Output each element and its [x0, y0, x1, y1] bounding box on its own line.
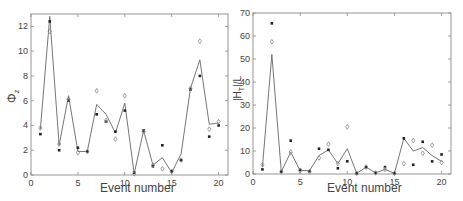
data-point-diamond [114, 137, 117, 142]
axes-frame [31, 14, 228, 175]
data-point-dot [58, 149, 61, 152]
axes-frame [253, 13, 451, 174]
x-tick-label: 20 [214, 178, 224, 188]
chart-right-ht-over-l: 05101520010203040506070 [231, 0, 463, 201]
data-point-diamond [412, 138, 415, 143]
left-ylabel-sub: z [12, 89, 21, 93]
y-tick-label: 8 [23, 71, 28, 81]
data-point-diamond [346, 124, 349, 129]
data-point-dot [431, 160, 434, 163]
y-tick-label: 0 [23, 170, 28, 180]
y-tick-label: 60 [240, 31, 250, 41]
data-point-dot [48, 20, 51, 23]
y-tick-label: 2 [23, 145, 28, 155]
y-tick-label: 6 [23, 96, 28, 106]
data-point-dot [114, 130, 117, 133]
data-point-dot [261, 168, 264, 171]
data-point-diamond [208, 127, 211, 132]
data-point-dot [421, 141, 424, 144]
data-point-diamond [431, 143, 434, 148]
data-point-diamond [402, 161, 405, 166]
y-tick-label: 0 [245, 169, 250, 179]
right-ylabel-sub: T [238, 87, 245, 91]
right-xlabel: Event number [327, 181, 402, 195]
data-point-dot [161, 144, 164, 147]
data-point-dot [318, 147, 321, 150]
data-point-dot [199, 75, 202, 78]
left-ylabel-main: Φ [5, 93, 19, 103]
data-point-dot [346, 160, 349, 163]
y-tick-label: 10 [18, 46, 28, 56]
data-point-diamond [198, 39, 201, 44]
y-tick-label: 70 [240, 8, 250, 18]
data-point-dot [289, 139, 292, 142]
y-tick-label: 10 [240, 146, 250, 156]
data-point-dot [271, 22, 274, 25]
data-point-diamond [161, 166, 164, 171]
right-ylabel: |HT|/L [232, 76, 245, 101]
chart-left-phi-z: 05101520024681012 [0, 0, 231, 201]
y-tick-label: 30 [240, 100, 250, 110]
x-tick-label: 0 [250, 177, 255, 187]
right-ylabel-tail: |/L [232, 76, 243, 87]
data-point-diamond [317, 156, 320, 161]
data-point-dot [337, 167, 340, 170]
data-point-diamond [123, 93, 126, 98]
series-line [40, 16, 218, 173]
series-line [262, 54, 441, 173]
x-tick-label: 0 [28, 178, 33, 188]
data-point-dot [39, 133, 42, 136]
data-point-diamond [327, 142, 330, 147]
data-point-dot [327, 149, 330, 152]
data-point-dot [95, 113, 98, 116]
figure: 05101520024681012 0510152001020304050607… [0, 0, 463, 201]
data-point-dot [208, 135, 211, 138]
data-point-diamond [270, 39, 273, 44]
data-point-dot [77, 146, 80, 149]
x-tick-label: 5 [298, 177, 303, 187]
data-point-diamond [421, 151, 424, 156]
data-point-dot [403, 137, 406, 140]
data-point-diamond [95, 88, 98, 93]
left-ylabel: Φz [5, 89, 21, 103]
left-xlabel: Event number [100, 181, 175, 195]
data-point-dot [124, 109, 127, 112]
y-tick-label: 50 [240, 54, 250, 64]
x-tick-label: 5 [75, 178, 80, 188]
y-tick-label: 12 [18, 21, 28, 31]
data-point-dot [440, 153, 443, 156]
right-ylabel-main: |H [232, 91, 243, 101]
y-tick-label: 4 [23, 120, 28, 130]
data-point-dot [412, 164, 415, 167]
y-tick-label: 20 [240, 123, 250, 133]
x-tick-label: 20 [437, 177, 447, 187]
